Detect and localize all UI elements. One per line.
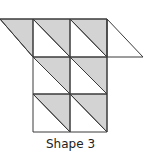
shape-label: Shape 3 bbox=[0, 137, 141, 151]
shape-diagram bbox=[0, 0, 148, 154]
unshaded-triangle bbox=[107, 19, 143, 57]
